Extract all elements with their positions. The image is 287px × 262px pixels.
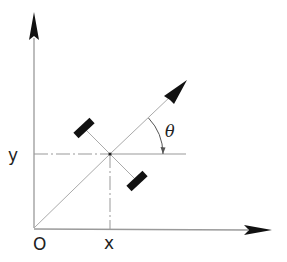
diagram-canvas: θ y O x xyxy=(0,0,287,262)
heading-arrow xyxy=(110,80,187,154)
theta-label: θ xyxy=(165,122,175,141)
origin-to-robot-line xyxy=(34,154,110,228)
x-axis xyxy=(34,225,272,235)
y-axis xyxy=(29,12,39,228)
theta-angle-arc xyxy=(149,118,164,154)
x-coordinate-label: x xyxy=(104,233,114,253)
y-axis-arrowhead-icon xyxy=(29,12,39,40)
theta-arc-arrowhead-icon xyxy=(161,147,166,154)
heading-arrowhead-icon xyxy=(164,80,187,104)
origin-label: O xyxy=(33,234,46,254)
y-coordinate-label: y xyxy=(8,145,18,165)
x-axis-arrowhead-icon xyxy=(244,225,272,235)
robot-center-point xyxy=(108,152,111,155)
